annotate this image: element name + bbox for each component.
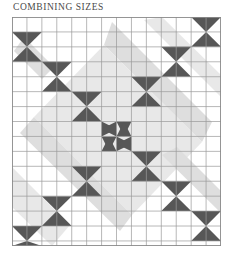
quilt-diagram	[12, 17, 221, 246]
quilt-svg	[12, 17, 221, 246]
page-title: COMBINING SIZES	[13, 1, 104, 14]
page-root: COMBINING SIZES	[0, 0, 232, 255]
